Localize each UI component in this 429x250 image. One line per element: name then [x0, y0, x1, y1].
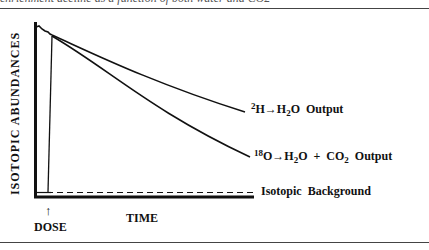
- dose-label: DOSE: [34, 220, 67, 235]
- dose-arrow-icon: ↑: [45, 203, 52, 219]
- legend-2h: 2H→H2O Output: [251, 101, 343, 118]
- legend-background: Isotopic Background: [261, 184, 371, 199]
- x-axis-label: TIME: [126, 211, 158, 226]
- series-18o-line: [52, 36, 250, 157]
- dose-spike: [48, 36, 52, 192]
- initial-peak: [36, 26, 52, 35]
- y-axis-label: ISOTOPIC ABUNDANCES: [8, 29, 23, 199]
- legend-18o: 18O→H2O + CO2 Output: [254, 148, 392, 165]
- chart-plot: [0, 0, 429, 250]
